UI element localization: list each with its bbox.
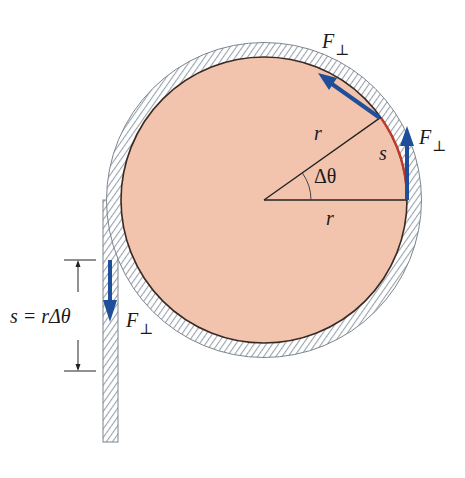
svg-text:F: F — [321, 30, 335, 52]
label-force-top: F ⊥ — [321, 30, 349, 58]
svg-text:⊥: ⊥ — [335, 42, 349, 58]
svg-text:⊥: ⊥ — [432, 138, 446, 154]
label-force-rope: F ⊥ — [125, 309, 153, 337]
label-radius-upper: r — [314, 122, 322, 144]
svg-text:⊥: ⊥ — [139, 321, 153, 337]
label-arc-s: s — [379, 142, 387, 164]
svg-text:s = rΔθ: s = rΔθ — [10, 305, 71, 327]
pulley-rope-diagram: r r Δθ s F ⊥ F ⊥ F ⊥ s = rΔθ — [0, 0, 465, 478]
label-angle: Δθ — [314, 165, 336, 187]
label-force-right: F ⊥ — [418, 126, 446, 154]
svg-text:F: F — [125, 309, 139, 331]
label-arc-length-formula: s = rΔθ — [10, 305, 71, 327]
label-radius-lower: r — [326, 207, 334, 229]
svg-text:F: F — [418, 126, 432, 148]
